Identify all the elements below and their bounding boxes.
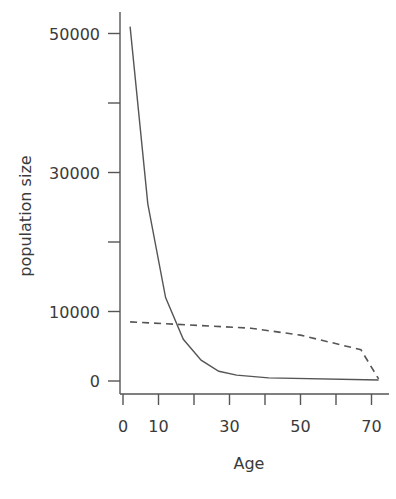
x-tick-label: 50 [290,417,310,436]
x-tick-label: 10 [148,417,168,436]
y-tick-label: 10000 [49,303,100,322]
series-line-dashed [130,322,379,379]
chart: 0100003000050000 010305070 population si… [0,0,396,499]
y-axis: 0100003000050000 [49,12,120,394]
y-axis-label: population size [16,155,35,276]
x-axis-label: Age [234,454,265,473]
plot-area [130,27,379,380]
y-tick-label: 50000 [49,25,100,44]
y-tick-label: 30000 [49,164,100,183]
x-axis: 010305070 [118,394,389,436]
series-line-solid [130,27,379,380]
x-tick-label: 30 [219,417,239,436]
x-tick-label: 70 [361,417,381,436]
y-tick-label: 0 [90,372,100,391]
x-tick-label: 0 [118,417,128,436]
